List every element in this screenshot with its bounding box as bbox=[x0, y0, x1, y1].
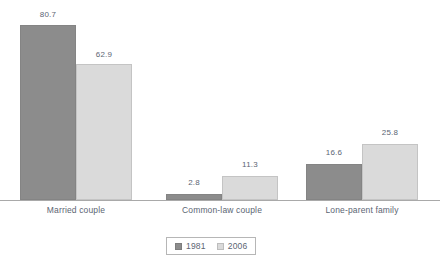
bar-value-label: 2.8 bbox=[156, 178, 232, 187]
bar-2006-common-law-couple[interactable] bbox=[222, 176, 278, 200]
category-label-lone-parent-family: Lone-parent family bbox=[302, 205, 422, 215]
legend-label-2006: 2006 bbox=[228, 241, 248, 251]
legend-label-1981: 1981 bbox=[186, 241, 206, 251]
bar-1981-lone-parent-family[interactable] bbox=[306, 164, 362, 200]
bar-2006-married-couple[interactable] bbox=[76, 64, 132, 200]
bar-value-label: 16.6 bbox=[296, 148, 372, 157]
plot-area: 80.7 62.9 2.8 11.3 16.6 25.8 bbox=[0, 0, 440, 201]
legend-entry-1981[interactable]: 1981 bbox=[175, 241, 206, 251]
category-label-common-law-couple: Common-law couple bbox=[162, 205, 282, 215]
chart-legend: 1981 2006 bbox=[166, 237, 256, 255]
bar-value-label: 25.8 bbox=[352, 128, 428, 137]
bar-value-label: 80.7 bbox=[10, 10, 86, 19]
legend-entry-2006[interactable]: 2006 bbox=[217, 241, 248, 251]
bar-value-label: 11.3 bbox=[212, 160, 288, 169]
x-axis-category-labels: Married couple Common-law couple Lone-pa… bbox=[0, 205, 440, 223]
grouped-bar-chart: 80.7 62.9 2.8 11.3 16.6 25.8 Married cou… bbox=[0, 0, 440, 268]
bar-2006-lone-parent-family[interactable] bbox=[362, 144, 418, 200]
legend-swatch-icon bbox=[217, 243, 224, 250]
bar-value-label: 62.9 bbox=[66, 50, 142, 59]
legend-swatch-icon bbox=[175, 243, 182, 250]
x-axis-line bbox=[0, 200, 440, 201]
category-label-married-couple: Married couple bbox=[16, 205, 136, 215]
